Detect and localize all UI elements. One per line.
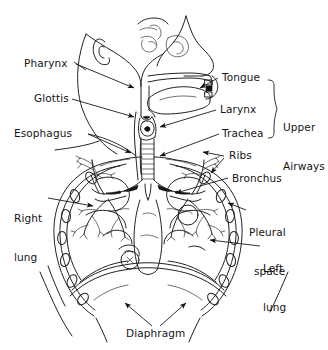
larynx: [139, 117, 157, 140]
label-left-lung-line1: Left: [263, 262, 286, 275]
diaphragm: [70, 261, 226, 300]
label-right-lung-line2: lung: [14, 251, 42, 264]
esophagus: [134, 112, 141, 180]
head-profile: [55, 16, 186, 154]
rib-cross-sections-right: [57, 170, 98, 307]
label-bronchus: Bronchus: [232, 172, 282, 185]
bronchial-tree-right: [71, 156, 139, 269]
right-main-bronchus: [92, 189, 126, 201]
label-upper-airways-line1: Upper: [283, 121, 325, 134]
label-larynx: Larynx: [220, 103, 256, 116]
label-pharynx: Pharynx: [24, 57, 68, 70]
label-trachea: Trachea: [222, 127, 264, 140]
label-upper-airways-line2: Airways: [283, 160, 325, 173]
label-glottis: Glottis: [34, 92, 69, 105]
label-tongue: Tongue: [222, 71, 260, 84]
carina: [124, 180, 172, 200]
label-right-lung-line1: Right: [14, 212, 42, 225]
label-diaphragm: Diaphragm: [126, 327, 185, 340]
label-esophagus: Esophagus: [14, 127, 72, 140]
trachea: [141, 139, 154, 180]
glottis: [141, 116, 152, 120]
upper-airways-brace: [268, 80, 277, 138]
label-left-lung: Left lung: [263, 236, 286, 340]
respiratory-anatomy-figure: Pharynx Glottis Esophagus Tongue Larynx …: [0, 0, 328, 350]
label-left-lung-line2: lung: [263, 301, 286, 314]
ear: [93, 39, 109, 65]
label-ribs: Ribs: [229, 149, 252, 162]
label-upper-airways: Upper Airways: [283, 95, 325, 199]
label-right-lung: Right lung: [14, 186, 42, 290]
tongue: [148, 76, 218, 114]
rib-cross-sections-left: [197, 170, 238, 307]
